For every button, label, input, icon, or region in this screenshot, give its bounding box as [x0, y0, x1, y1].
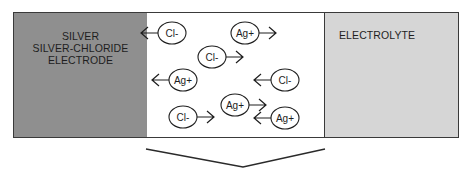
ion-label: Cl- [279, 75, 292, 86]
ion-label: Cl- [166, 28, 179, 39]
ion-label: Ag+ [174, 75, 192, 86]
ions-layer: Cl-Ag+Cl-Ag+Cl-Ag+Cl-Ag+ [0, 0, 470, 176]
ion-chloride: Cl- [254, 69, 299, 91]
ion-label: Ag+ [236, 28, 254, 39]
arrow-left-icon [141, 27, 158, 39]
ion-silver: Ag+ [152, 69, 197, 91]
ion-silver: Ag+ [231, 22, 276, 44]
arrow-left-icon [254, 74, 271, 86]
arrow-right-icon [197, 111, 214, 123]
ion-label: Cl- [177, 112, 190, 123]
arrow-right-icon [226, 51, 243, 63]
ion-label: Ag+ [226, 100, 244, 111]
arrow-right-icon [249, 99, 266, 111]
ions-group: Cl-Ag+Cl-Ag+Cl-Ag+Cl-Ag+ [141, 22, 299, 129]
arrow-left-icon [254, 112, 271, 124]
ion-chloride: Cl- [198, 46, 243, 68]
bracket-chevron [146, 149, 325, 167]
arrow-right-icon [259, 27, 276, 39]
ion-silver: Ag+ [221, 94, 266, 116]
ion-label: Cl- [206, 52, 219, 63]
ion-chloride: Cl- [169, 106, 214, 128]
electrode-diagram: SILVER SILVER-CHLORIDE ELECTRODE ELECTRO… [0, 0, 470, 176]
ion-chloride: Cl- [141, 22, 186, 44]
ion-label: Ag+ [276, 113, 294, 124]
ion-silver: Ag+ [254, 107, 299, 129]
arrow-left-icon [152, 74, 169, 86]
